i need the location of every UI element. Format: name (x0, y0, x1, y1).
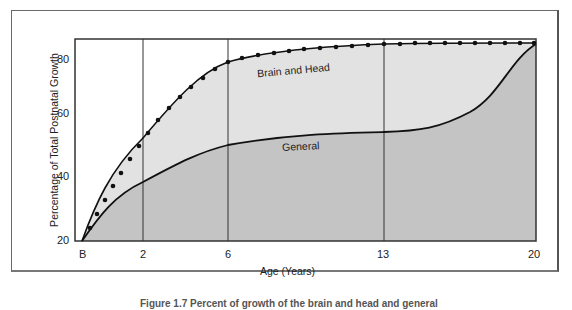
x-tick-13: 13 (377, 248, 389, 260)
general-label: General (282, 139, 320, 153)
y-axis-label: Percentage of Total Postnatal Growth (48, 40, 60, 240)
chart-plot (0, 0, 572, 310)
x-axis-label: Age (Years) (260, 265, 315, 277)
x-tick-20: 20 (528, 248, 540, 260)
x-tick-6: 6 (225, 248, 231, 260)
x-tick-2: 2 (140, 248, 146, 260)
x-tick-b: B (79, 248, 86, 260)
figure-caption: Figure 1.7 Percent of growth of the brai… (140, 298, 438, 309)
